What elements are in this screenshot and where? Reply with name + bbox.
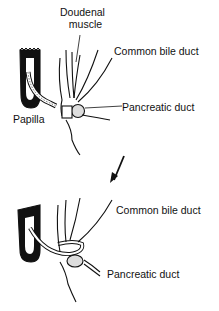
- label-doudenal-muscle: Doudenal muscle: [60, 6, 105, 30]
- label-line: muscle: [60, 18, 105, 30]
- arrow-down-left-icon: [110, 156, 124, 183]
- top-panel: [20, 35, 122, 155]
- bile-duct-line-bottom: [78, 200, 112, 242]
- label-line: Doudenal: [60, 6, 105, 18]
- stone-bottom: [67, 255, 83, 267]
- label-common-bile-duct-top: Common bile duct: [114, 45, 199, 57]
- label-common-bile-duct-bottom: Common bile duct: [116, 204, 201, 216]
- bottom-panel: [18, 198, 112, 302]
- label-papilla: Papilla: [13, 113, 45, 125]
- label-pancreatic-duct-bottom: Pancreatic duct: [107, 268, 179, 280]
- label-pancreatic-duct-top: Pancreatic duct: [122, 101, 194, 113]
